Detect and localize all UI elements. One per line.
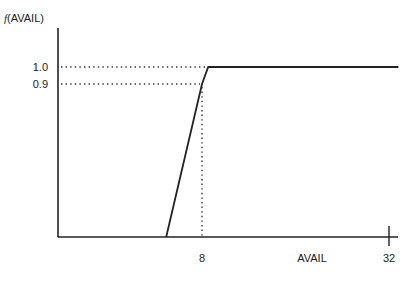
x-axis-label: AVAIL: [297, 252, 327, 264]
y-axis-label-argument: (AVAIL): [7, 12, 44, 24]
x-tick-label: 32: [383, 252, 395, 264]
y-tick-label: 0.9: [33, 78, 48, 90]
y-tick-label: 1.0: [33, 61, 48, 73]
x-tick-label: 8: [199, 252, 205, 264]
series-line: [166, 67, 398, 237]
chart: 1.00.9832 f(AVAIL) AVAIL: [0, 0, 420, 281]
y-axis-label: f(AVAIL): [4, 12, 44, 24]
